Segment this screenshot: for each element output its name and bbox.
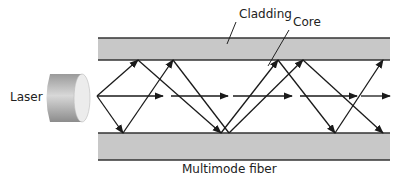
- fiber-diagram: [0, 0, 403, 180]
- bottom-cladding: [98, 133, 390, 160]
- laser-icon: [47, 74, 91, 122]
- top-cladding: [98, 38, 390, 60]
- core-label: Core: [293, 16, 321, 28]
- laser-label: Laser: [10, 91, 43, 103]
- cladding-label: Cladding: [239, 8, 292, 20]
- caption-label: Multimode fiber: [182, 163, 277, 175]
